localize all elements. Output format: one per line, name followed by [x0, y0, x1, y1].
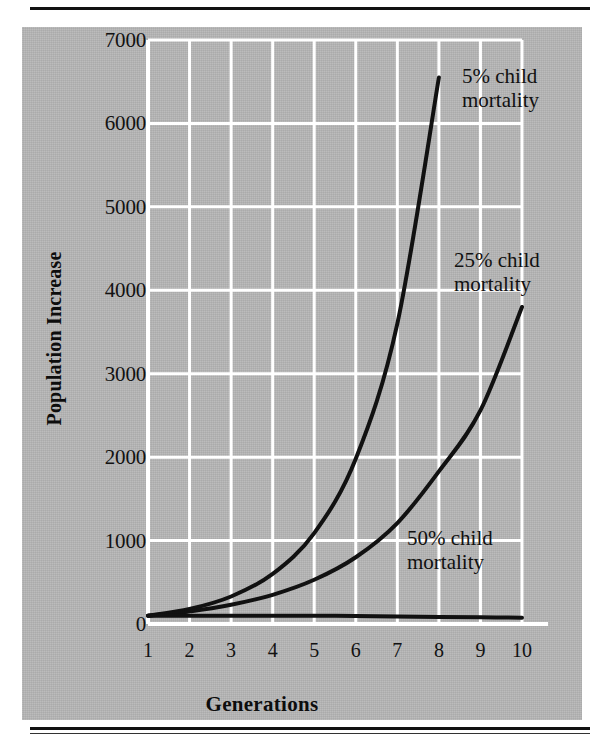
x-tick-label: 4 — [268, 640, 278, 660]
x-axis-tick-labels: 12345678910 — [22, 27, 582, 720]
figure-panel: 70006000500040003000200010000 1234567891… — [22, 27, 582, 720]
x-tick-label: 8 — [434, 640, 444, 660]
x-tick-label: 2 — [185, 640, 195, 660]
x-tick-label: 6 — [351, 640, 361, 660]
annotation-5-percent: 5% child mortality — [462, 65, 539, 112]
x-tick-label: 7 — [392, 640, 402, 660]
annotation-25-percent: 25% child mortality — [454, 249, 540, 296]
x-tick-label: 10 — [512, 640, 532, 660]
page-rule-top — [30, 7, 590, 10]
page-rule-bottom-hairline — [30, 733, 590, 734]
x-tick-label: 3 — [226, 640, 236, 660]
annotation-50-percent: 50% child mortality — [407, 527, 493, 574]
x-tick-label: 9 — [475, 640, 485, 660]
y-axis-title: Population Increase — [43, 239, 66, 439]
x-axis-title: Generations — [22, 692, 502, 717]
x-tick-label: 5 — [309, 640, 319, 660]
x-tick-label: 1 — [143, 640, 153, 660]
page-rule-bottom — [30, 727, 590, 730]
